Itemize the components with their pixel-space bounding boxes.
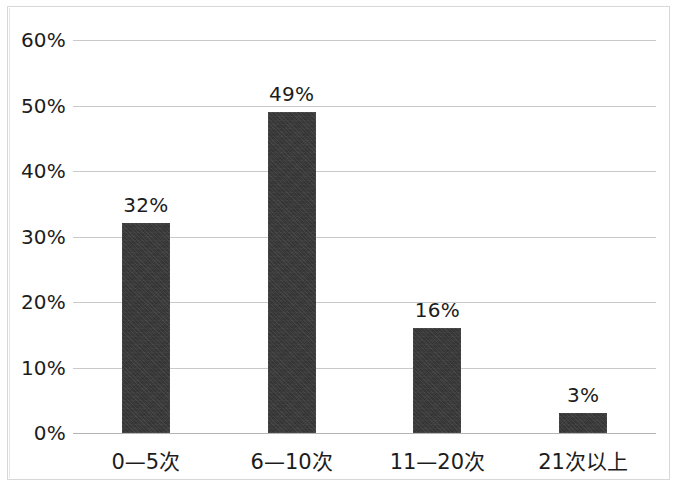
bar-value-label: 32% xyxy=(96,193,196,217)
y-axis-tick-label: 50% xyxy=(4,94,66,118)
bar xyxy=(413,328,461,433)
x-axis-tick-label: 0—5次 xyxy=(66,445,226,475)
bar-value-label: 3% xyxy=(533,383,633,407)
bar xyxy=(268,112,316,433)
gridline-40% xyxy=(73,171,656,172)
plot-area: 32%49%16%3% xyxy=(73,40,656,433)
bar-value-label: 16% xyxy=(387,298,487,322)
y-axis: 0%10%20%30%40%50%60% xyxy=(0,40,66,433)
y-axis-tick-label: 20% xyxy=(4,290,66,314)
y-axis-tick-label: 40% xyxy=(4,159,66,183)
y-axis-tick-label: 0% xyxy=(4,421,66,445)
x-axis-tick-label: 6—10次 xyxy=(212,445,372,475)
bar xyxy=(559,413,607,433)
y-axis-tick-label: 10% xyxy=(4,356,66,380)
bar-value-label: 49% xyxy=(242,82,342,106)
gridline-60% xyxy=(73,40,656,41)
y-axis-tick-label: 60% xyxy=(4,28,66,52)
y-axis-tick-label: 30% xyxy=(4,225,66,249)
x-axis-tick-label: 21次以上 xyxy=(503,445,663,475)
bar-chart-figure: 0%10%20%30%40%50%60% 32%49%16%3% 0—5次6—1… xyxy=(0,0,678,489)
x-axis-tick-label: 11—20次 xyxy=(357,445,517,475)
gridline-0% xyxy=(73,433,656,434)
x-axis: 0—5次6—10次11—20次21次以上 xyxy=(73,445,656,485)
gridline-50% xyxy=(73,106,656,107)
bar xyxy=(122,223,170,433)
